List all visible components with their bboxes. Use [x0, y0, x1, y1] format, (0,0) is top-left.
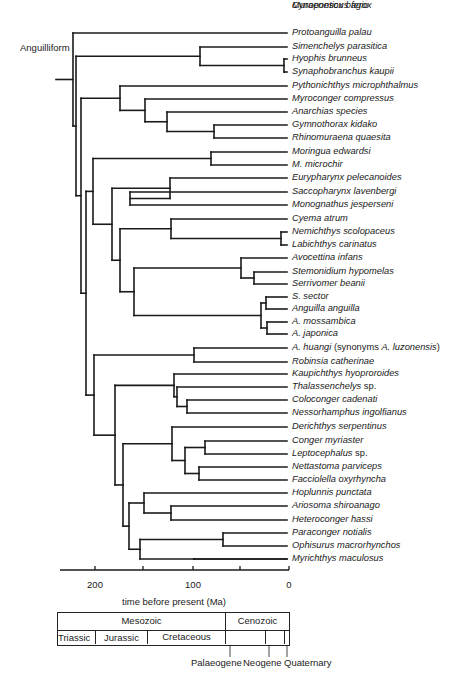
leaf-label: Simenchelys parasitica: [292, 41, 387, 52]
period-neogene-cell: [266, 631, 285, 644]
era-mesozoic: Mesozoic: [58, 613, 226, 631]
leaf-label: Cyema atrum: [292, 213, 348, 224]
leaf-label: Myrichthys maculosus: [292, 553, 383, 564]
leaf-label: Heteroconger hassi: [292, 514, 373, 525]
leaf-label: Cynoponticus ferox: [292, 0, 372, 11]
leaf-label: Labichthys carinatus: [292, 239, 377, 250]
leaf-label: S. sector: [292, 291, 329, 302]
axis-tick-200: 200: [87, 579, 103, 590]
leaf-label: Robinsia catherinae: [292, 356, 374, 367]
leaf-label: Avocettina infans: [292, 252, 363, 263]
leaf-label: Monognathus jesperseni: [292, 199, 393, 210]
axis-tick-0: 0: [286, 579, 291, 590]
leaf-label: Pythonichthys microphthalmus: [292, 80, 418, 91]
leaf-label: Nemichthys scolopaceus: [292, 226, 395, 237]
leaf-label: Coloconger cadenati: [292, 394, 377, 405]
geologic-timescale: Mesozoic Cenozoic Triassic Jurassic Cret…: [57, 612, 290, 646]
period-triassic: Triassic: [58, 631, 96, 644]
leaf-label: Hoplunnis punctata: [292, 487, 372, 498]
leaf-label: Anguilla anguilla: [292, 303, 360, 314]
leaf-label: Facciolella oxyrhyncha: [292, 474, 386, 485]
leaf-label: Nettastoma parviceps: [292, 461, 382, 472]
leaf-label: Serrivomer beanii: [292, 278, 365, 289]
leaf-label: Conger myriaster: [292, 435, 363, 446]
leaf-label: A. huangi (synonyms A. luzonensis): [292, 342, 440, 353]
leaf-label: Derichthys serpentinus: [292, 421, 387, 432]
leaf-label: Protoanguilla palau: [292, 27, 372, 38]
leaf-label: Paraconger notialis: [292, 527, 372, 538]
leaf-label: Gymnothorax kidako: [292, 119, 377, 130]
leaf-label: Rhinomuraena quaesita: [292, 132, 391, 143]
leaf-label: Thalassenchelys sp.: [292, 381, 376, 392]
leaf-label: Anarchias species: [292, 106, 367, 117]
callout-quaternary: Quaternary: [284, 657, 332, 668]
axis-title: time before present (Ma): [122, 596, 226, 607]
leaf-label: Stemonidium hypomelas: [292, 266, 394, 277]
leaf-label: Kaupichthys hyoproroides: [292, 368, 399, 379]
leaf-label: Ariosoma shiroanago: [292, 500, 380, 511]
leaf-label: Nessorhamphus ingolfianus: [292, 407, 407, 418]
period-jurassic: Jurassic: [96, 631, 148, 644]
leaf-label: A. japonica: [292, 328, 338, 339]
callout-neogene: Neogene: [243, 657, 282, 668]
leaf-label: M. microchir: [292, 159, 343, 170]
leaf-label: Hyophis brunneus: [292, 53, 367, 64]
callout-palaeogene: Palaeogene: [191, 657, 242, 668]
period-cretaceous: Cretaceous: [148, 631, 226, 644]
leaf-label: Myroconger compressus: [292, 93, 394, 104]
leaf-label: Saccopharynx lavenbergi: [292, 186, 396, 197]
axis-tick-100: 100: [185, 579, 201, 590]
period-quaternary-cell: [285, 631, 289, 644]
leaf-label: Ophisurus macrorhynchos: [292, 540, 401, 551]
leaf-label: Leptocephalus sp.: [292, 448, 367, 459]
leaf-label: A. mossambica: [292, 316, 356, 327]
leaf-label: Synaphobranchus kaupii: [292, 66, 394, 77]
clade-label-anguilliform: Anguilliform: [20, 42, 70, 53]
era-cenozoic: Cenozoic: [226, 613, 289, 631]
period-palaeogene-cell: [226, 631, 266, 644]
leaf-label: Moringua edwardsi: [292, 146, 371, 157]
leaf-label: Eurypharynx pelecanoides: [292, 172, 402, 183]
